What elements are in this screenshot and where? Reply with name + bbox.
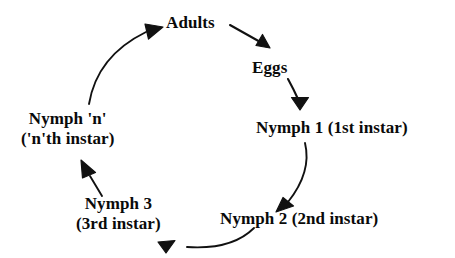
adults-text: Adults [166,13,215,33]
nymph-n-text-line1: Nymph 'n' [21,109,115,129]
nymph-n-text-line2: ('n'th instar) [21,129,115,149]
node-label-nymph1: Nymph 1 (1st instar) [256,118,408,138]
node-label-adults: Adults [166,13,215,33]
nymph2-text: Nymph 2 (2nd instar) [220,209,378,229]
eggs-text: Eggs [252,58,287,78]
arrow-adults-to-eggs [230,25,270,48]
node-label-nymph3: Nymph 3 (3rd instar) [76,194,161,233]
life-cycle-diagram: Adults Eggs Nymph 1 (1st instar) Nymph 2… [0,0,455,258]
nymph3-text-line1: Nymph 3 [76,194,161,214]
arrow-nymph3-to-nymphn [81,160,102,196]
node-label-nymph2: Nymph 2 (2nd instar) [220,209,378,229]
arrow-nymph2-to-nymph3 [158,228,254,253]
nymph3-text-line2: (3rd instar) [76,214,161,234]
arrow-eggs-to-nymph1 [288,79,309,110]
node-label-nymph-n: Nymph 'n' ('n'th instar) [21,109,115,148]
arrow-nymph1-to-nymph2 [276,143,307,212]
arrow-nymphn-to-adults [89,24,163,104]
nymph1-text: Nymph 1 (1st instar) [256,118,408,138]
node-label-eggs: Eggs [252,58,287,78]
